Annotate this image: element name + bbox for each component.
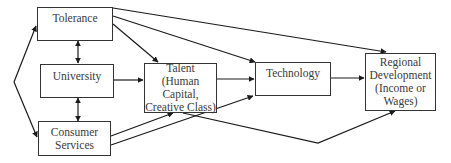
node-consumer-services-label: Consumer Services [51,126,98,152]
node-consumer-services: Consumer Services [38,121,111,156]
edge-tolerance-technology [113,16,255,62]
edge-bracket-to-consumer-services [14,82,37,137]
node-university: University [40,64,114,98]
edge-bracket-to-tolerance [14,26,36,82]
edge-consumer-talent [111,113,173,136]
node-university-label: University [53,70,102,83]
edge-tolerance-regional [113,8,386,52]
diagram-canvas: Tolerance University Consumer Services T… [0,0,451,163]
node-talent: Talent (Human Capital, Creative Class) [144,63,217,113]
edge-tolerance-talent [113,24,158,62]
node-tolerance-label: Tolerance [52,12,97,25]
node-regional-development: Regional Development (Income or Wages) [365,53,436,111]
node-technology-label: Technology [266,67,320,80]
node-regional-development-label: Regional Development (Income or Wages) [370,56,432,108]
edge-talent-regional [183,111,395,143]
node-tolerance: Tolerance [37,7,113,41]
node-technology: Technology [255,62,331,96]
node-talent-label: Talent (Human Capital, Creative Class) [145,62,216,114]
